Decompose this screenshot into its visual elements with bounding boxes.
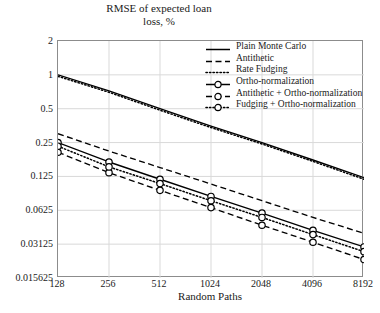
legend-label: Ortho-normalization <box>231 76 314 87</box>
series-marker-4-5 <box>310 239 316 245</box>
x-tick-label: 4096 <box>302 278 322 289</box>
y-axis-title: RMSE of expected loan loss, % <box>74 2 244 28</box>
x-tick-label: 256 <box>101 278 116 289</box>
y-tick-label: 2 <box>48 35 53 46</box>
series-marker-5-2 <box>157 180 163 186</box>
chart-root: RMSE of expected loan loss, % 210.50.250… <box>0 0 380 313</box>
y-tick-label: 1 <box>48 68 53 79</box>
y-tick-label: 0.03125 <box>21 238 54 249</box>
x-axis-title: Random Paths <box>57 290 363 302</box>
y-tick-label: 0.125 <box>31 170 54 181</box>
legend-item-3[interactable]: Ortho-normalization <box>205 76 377 88</box>
y-axis-title-line1: RMSE of expected loan <box>106 2 211 14</box>
legend-label: Rate Fudging <box>231 64 287 75</box>
x-tick-label: 1024 <box>200 278 220 289</box>
y-axis-title-line2: loss, % <box>143 15 175 27</box>
legend-label: Antithetic <box>231 53 274 64</box>
y-axis-tick-labels: 210.50.250.1250.06250.031250.015625 <box>0 40 53 277</box>
series-marker-4-3 <box>208 204 214 210</box>
x-tick-label: 512 <box>152 278 167 289</box>
legend-key-icon <box>205 64 231 75</box>
legend-key-icon <box>205 88 231 99</box>
series-marker-5-3 <box>208 198 214 204</box>
series-marker-5-0 <box>58 143 61 149</box>
x-tick-label: 8192 <box>353 278 373 289</box>
series-marker-4-4 <box>259 222 265 228</box>
series-marker-5-4 <box>259 214 265 220</box>
series-marker-5-5 <box>310 231 316 237</box>
legend-key-icon <box>205 53 231 64</box>
legend-item-1[interactable]: Antithetic <box>205 53 377 65</box>
series-marker-4-2 <box>157 187 163 193</box>
legend-item-2[interactable]: Rate Fudging <box>205 64 377 76</box>
x-tick-label: 2048 <box>251 278 271 289</box>
legend-item-0[interactable]: Plain Monte Carlo <box>205 41 377 53</box>
legend-label: Antithetic + Ortho-normalization <box>231 88 362 99</box>
legend-item-5[interactable]: Fudging + Ortho-normalization <box>205 99 377 111</box>
chart-legend: Plain Monte CarloAntitheticRate FudgingO… <box>205 41 377 111</box>
legend-label: Fudging + Ortho-normalization <box>231 99 356 110</box>
series-marker-4-0 <box>58 149 61 155</box>
y-tick-label: 0.015625 <box>16 272 54 283</box>
y-tick-label: 0.5 <box>41 102 54 113</box>
series-marker-5-1 <box>106 164 112 170</box>
legend-key-icon <box>205 76 231 87</box>
legend-item-4[interactable]: Antithetic + Ortho-normalization <box>205 87 377 99</box>
x-tick-label: 128 <box>50 278 65 289</box>
y-tick-label: 0.0625 <box>26 204 54 215</box>
y-tick-label: 0.25 <box>36 136 54 147</box>
legend-label: Plain Monte Carlo <box>231 41 306 52</box>
legend-key-icon <box>205 41 231 52</box>
series-marker-4-6 <box>361 256 364 262</box>
series-marker-5-6 <box>361 248 364 254</box>
legend-key-icon <box>205 99 231 110</box>
